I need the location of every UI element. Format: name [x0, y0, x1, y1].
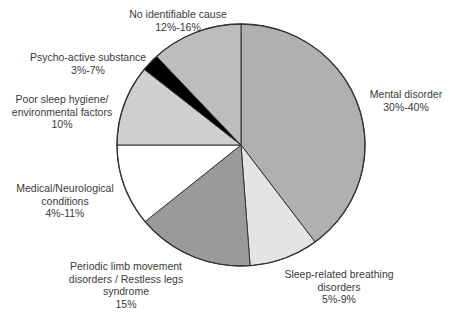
label-text: Medical/Neurological: [12, 182, 118, 195]
label-text: Poor sleep hygiene/: [6, 93, 118, 106]
label-text: disorders / Restless legs: [64, 273, 188, 286]
label-value: 12%-16%: [118, 21, 238, 34]
label-value: 15%: [64, 298, 188, 311]
label-medical-neurological: Medical/Neurological conditions 4%-11%: [12, 182, 118, 220]
label-text: syndrome: [64, 285, 188, 298]
label-text: Mental disorder: [365, 88, 447, 101]
label-text: Periodic limb movement: [64, 260, 188, 273]
label-text: conditions: [12, 195, 118, 208]
label-text: Psycho-active substance: [24, 51, 152, 64]
label-no-identifiable-cause: No identifiable cause 12%-16%: [118, 8, 238, 33]
pie-slices: [117, 24, 365, 266]
label-text: No identifiable cause: [118, 8, 238, 21]
label-poor-sleep-hygiene: Poor sleep hygiene/ environmental factor…: [6, 93, 118, 131]
label-text: environmental factors: [6, 106, 118, 119]
label-value: 4%-11%: [12, 207, 118, 220]
label-value: 5%-9%: [282, 293, 396, 306]
label-psycho-active-substance: Psycho-active substance 3%-7%: [24, 51, 152, 76]
label-periodic-limb-movement: Periodic limb movement disorders / Restl…: [64, 260, 188, 310]
label-value: 30%-40%: [365, 101, 447, 114]
label-text: Sleep-related breathing: [282, 268, 396, 281]
label-value: 10%: [6, 118, 118, 131]
label-mental-disorder: Mental disorder 30%-40%: [365, 88, 447, 113]
label-sleep-related-breathing: Sleep-related breathing disorders 5%-9%: [282, 268, 396, 306]
label-value: 3%-7%: [24, 64, 152, 77]
label-text: disorders: [282, 281, 396, 294]
